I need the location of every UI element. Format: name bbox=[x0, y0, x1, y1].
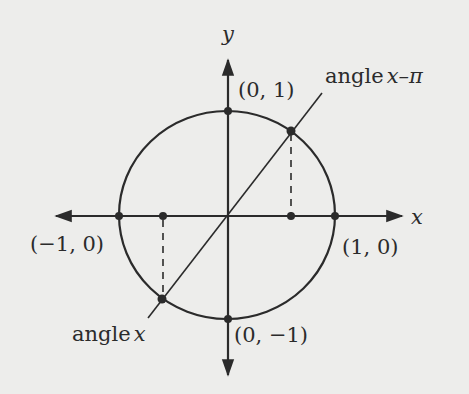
point-right bbox=[331, 212, 339, 220]
point-cos-left bbox=[159, 212, 167, 220]
unit-circle-diagram: y x (0, 1) (−1, 0) (1, 0) (0, −1) anglex… bbox=[0, 0, 469, 394]
point-cos-right bbox=[287, 212, 295, 220]
y-axis-label: y bbox=[221, 22, 235, 46]
label-point-bottom: (0, −1) bbox=[234, 323, 308, 347]
label-angle-x-minus-pi: anglex–π bbox=[325, 64, 424, 88]
point-bottom bbox=[224, 315, 232, 323]
point-angle-x-minus-pi bbox=[287, 127, 296, 136]
point-angle-x bbox=[158, 295, 167, 304]
label-angle-x: anglex bbox=[72, 322, 146, 346]
label-point-left: (−1, 0) bbox=[30, 232, 104, 256]
x-axis-label: x bbox=[411, 205, 423, 229]
label-point-top: (0, 1) bbox=[238, 78, 294, 102]
label-point-right: (1, 0) bbox=[342, 235, 398, 259]
angle-ray-line bbox=[148, 93, 322, 318]
point-top bbox=[224, 107, 232, 115]
point-left bbox=[115, 212, 123, 220]
